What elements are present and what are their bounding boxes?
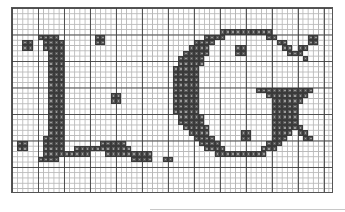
stitch-cell xyxy=(22,146,27,151)
stitch-cell xyxy=(220,35,225,40)
stitch-cell xyxy=(277,141,282,146)
stitch-cell xyxy=(246,136,251,141)
stitch-cell xyxy=(303,93,308,98)
cross-stitch-chart xyxy=(11,7,333,193)
chart-title: Cross-stitch chart: letters L . G xyxy=(0,196,15,197)
stitch-cell xyxy=(204,51,209,56)
stitch-cell xyxy=(209,40,214,45)
stitch-cell xyxy=(298,98,303,103)
stitch-cell xyxy=(308,136,313,141)
stitch-cell xyxy=(313,40,318,45)
stitch-cell xyxy=(287,130,292,135)
stitch-cell xyxy=(85,151,90,156)
stitch-cell xyxy=(116,98,121,103)
stitch-cell xyxy=(168,157,173,162)
stitch-cell xyxy=(241,51,246,56)
stitch-cell xyxy=(100,40,105,45)
stitch-cell xyxy=(199,61,204,66)
stitch-cell xyxy=(147,157,152,162)
divider xyxy=(150,209,345,210)
stitch-cell xyxy=(54,157,59,162)
stitch-cell xyxy=(303,45,308,50)
stitch-cell xyxy=(261,151,266,156)
stitch-cell xyxy=(308,88,313,93)
stitch-cell xyxy=(28,45,33,50)
stitch-cell xyxy=(282,136,287,141)
stitch-cell xyxy=(272,146,277,151)
stitch-cell xyxy=(303,56,308,61)
